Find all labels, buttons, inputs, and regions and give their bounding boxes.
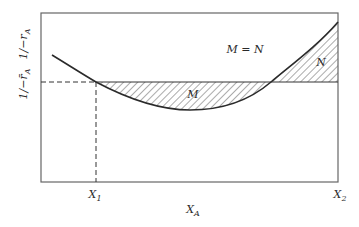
- svg-text:1/−rA: 1/−rA: [17, 28, 32, 59]
- x2-label: X2: [333, 188, 347, 203]
- x1-label: X1: [88, 188, 102, 203]
- region-m-hatched: [96, 82, 271, 110]
- y-label-lower: 1/−r̄A: [17, 68, 32, 99]
- equality-annotation: M = N: [225, 43, 263, 56]
- region-m-label: M: [186, 88, 199, 101]
- svg-text:1/−r̄A: 1/−r̄A: [17, 68, 32, 99]
- y-label-upper: 1/−rA: [17, 28, 32, 59]
- levenspiel-diagram: 1/−rA 1/−r̄A M = N M N X1 X2 XA: [0, 0, 359, 227]
- region-n-label: N: [315, 56, 326, 69]
- x-axis-label: XA: [185, 203, 200, 218]
